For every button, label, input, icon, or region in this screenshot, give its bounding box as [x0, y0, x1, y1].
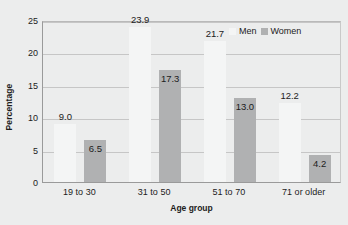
y-axis-tick-label: 5 [14, 146, 38, 156]
y-axis-tick-label: 25 [14, 16, 38, 26]
y-axis-tick-label: 0 [14, 178, 38, 188]
legend-item-men[interactable]: Men [229, 26, 257, 36]
gridline [43, 54, 340, 55]
legend-swatch-women [261, 28, 268, 35]
value-label-women-1: 6.5 [75, 143, 115, 154]
x-axis-tick-label: 51 to 70 [191, 187, 267, 197]
y-axis-tick-label: 20 [14, 48, 38, 58]
gridline [43, 87, 340, 88]
value-label-men-4: 12.2 [270, 90, 310, 101]
legend-item-women[interactable]: Women [261, 26, 302, 36]
legend-swatch-men [229, 28, 236, 35]
x-axis-tick-label: 19 to 30 [41, 187, 117, 197]
legend-label-men: Men [239, 26, 257, 36]
value-label-women-4: 4.2 [300, 158, 340, 169]
bar-men-3 [204, 41, 226, 182]
chart-legend: MenWomen [229, 26, 301, 36]
y-axis-tick-label: 15 [14, 81, 38, 91]
value-label-men-2: 23.9 [120, 14, 160, 25]
bar-women-2 [159, 70, 181, 182]
legend-label-women: Women [271, 26, 302, 36]
plot-area: 9.06.523.917.321.713.012.24.2 [42, 21, 341, 183]
bar-men-4 [279, 103, 301, 182]
y-axis-tick-label: 10 [14, 113, 38, 123]
value-label-men-1: 9.0 [45, 111, 85, 122]
x-axis-title: Age group [42, 203, 341, 213]
bar-men-1 [54, 124, 76, 182]
x-axis-tick-label: 31 to 50 [116, 187, 192, 197]
bar-chart: Percentage 0510152025 9.06.523.917.321.7… [0, 0, 348, 225]
x-axis-tick-label: 71 or older [266, 187, 342, 197]
value-label-women-2: 17.3 [150, 73, 190, 84]
bar-men-2 [129, 27, 151, 182]
gridline [43, 22, 340, 23]
value-label-women-3: 13.0 [225, 101, 265, 112]
